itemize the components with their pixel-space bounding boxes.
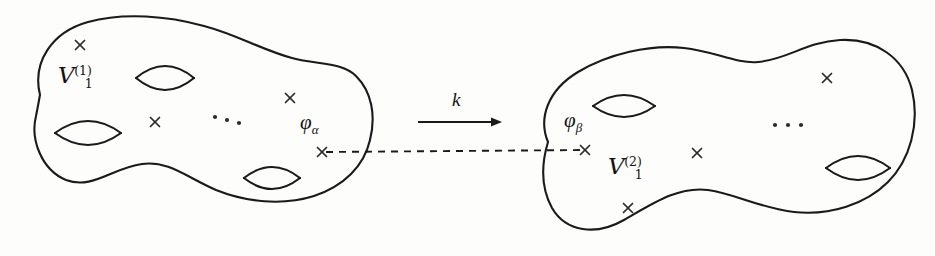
ellipsis-left	[213, 115, 241, 125]
ellipsis-right-dot	[786, 123, 790, 127]
handle-left-lower-arc	[55, 133, 121, 145]
genus-surface-map-figure: V(1)1 φα V(2)1 φβ k	[0, 0, 935, 256]
handle-bottom-upper-arc	[244, 167, 300, 178]
right-surface-outline	[543, 40, 915, 230]
handle-top-lower-arc	[136, 78, 194, 90]
right-surface-label: V(2)1	[608, 155, 643, 182]
map-arrow-label: k	[452, 90, 460, 109]
ellipsis-left-dot	[225, 118, 229, 122]
handle-left-upper-arc	[593, 95, 655, 106]
ellipsis-right-dot	[799, 123, 803, 127]
handle-right-lower-arc	[826, 168, 890, 180]
phi-alpha-label: φα	[300, 112, 318, 136]
handle-right-upper-arc	[826, 156, 890, 168]
left-surface-label-subscript: 1	[85, 76, 93, 91]
left-surface-label: V(1)1	[58, 64, 93, 91]
figure-canvas	[0, 0, 935, 256]
right-genus-surface	[543, 40, 915, 230]
phi-beta-label: φβ	[564, 110, 582, 134]
right-surface-label-base: V	[608, 153, 624, 179]
handle-left-upper-arc	[55, 121, 121, 133]
left-genus-surface	[34, 16, 372, 201]
ellipsis-left-dot	[237, 121, 241, 125]
handle-bottom-lower-arc	[244, 178, 300, 189]
ellipsis-right-dot	[773, 123, 777, 127]
map-arrow-head	[491, 118, 502, 127]
ellipsis-left-dot	[213, 115, 217, 119]
map-arrow	[418, 118, 502, 127]
phi-beta-subscript: β	[576, 120, 582, 135]
ellipsis-right	[773, 123, 803, 127]
right-surface-label-subscript: 1	[635, 167, 643, 182]
phi-alpha-base: φ	[300, 110, 312, 134]
left-surface-label-base: V	[58, 62, 74, 88]
handle-top-upper-arc	[136, 66, 194, 78]
phi-beta-base: φ	[564, 108, 576, 132]
left-surface-outline	[34, 16, 372, 201]
phi-alpha-subscript: α	[312, 122, 319, 137]
handle-left-lower-arc	[593, 106, 655, 117]
